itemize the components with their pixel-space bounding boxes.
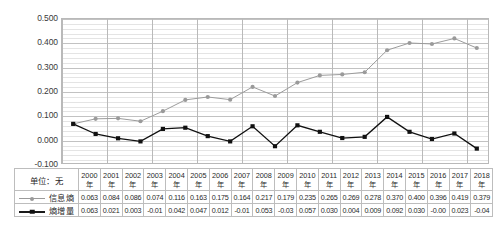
y-axis-tick-label: 0.000 [0, 135, 58, 145]
series-name-label: 熵增量 [49, 204, 74, 216]
chart-plot-region: 0.5000.4000.3000.2000.1000.000-0.100 [0, 0, 504, 168]
table-cell-value: 0.042 [166, 204, 188, 217]
table-cell-value: 0.265 [318, 191, 340, 204]
table-cell-value: 0.004 [340, 204, 362, 217]
table-cell-value: 0.370 [384, 191, 406, 204]
table-header-year: 2001年 [100, 169, 122, 191]
table-cell-value: 0.021 [100, 204, 122, 217]
data-point [161, 109, 165, 113]
table-cell-value: -0.03 [275, 204, 297, 217]
table-header-year: 2003年 [144, 169, 166, 191]
plot-area [61, 18, 489, 164]
data-point [452, 36, 456, 40]
data-point [340, 136, 344, 140]
table-cell-value: 0.116 [166, 191, 188, 204]
table-header-year: 2009年 [275, 169, 297, 191]
table-cell-value: 0.074 [144, 191, 166, 204]
y-axis-tick-label: 0.100 [0, 110, 58, 120]
table-cell-value: 0.235 [296, 191, 318, 204]
data-point [340, 72, 344, 76]
table-cell-value: 0.164 [231, 191, 253, 204]
table-header-year: 2010年 [296, 169, 318, 191]
table-header-year: 2012年 [340, 169, 362, 191]
table-header-year: 2017年 [449, 169, 471, 191]
table-cell-value: 0.400 [405, 191, 427, 204]
data-point [273, 94, 277, 98]
table-header-year: 2018年 [471, 169, 493, 191]
y-axis-tick-label: 0.200 [0, 86, 58, 96]
table-cell-value: 0.179 [275, 191, 297, 204]
table-cell-value: 0.053 [253, 204, 275, 217]
data-point [161, 127, 165, 131]
table-cell-value: 0.217 [253, 191, 275, 204]
data-point [228, 98, 232, 102]
data-point [206, 134, 210, 138]
table-cell-value: -0.04 [471, 204, 493, 217]
y-axis-tick-label: 0.300 [0, 62, 58, 72]
table-cell-value: 0.163 [187, 191, 209, 204]
table-header-year: 2008年 [253, 169, 275, 191]
table-header-year: 2004年 [166, 169, 188, 191]
data-point [138, 139, 142, 143]
series-line-2 [73, 117, 477, 149]
data-point [385, 115, 389, 119]
data-point [452, 131, 456, 135]
data-point [475, 147, 479, 151]
table-cell-value: 0.175 [209, 191, 231, 204]
table-cell-value: -0.00 [427, 204, 449, 217]
table-cell-value: 0.092 [384, 204, 406, 217]
unit-cell: 单位：无 [15, 169, 79, 191]
table-header-year: 2016年 [427, 169, 449, 191]
table-cell-value: 0.057 [296, 204, 318, 217]
data-point [407, 130, 411, 134]
table-cell-value: 0.030 [405, 204, 427, 217]
data-point [430, 42, 434, 46]
series-line-1 [73, 38, 477, 123]
data-point [475, 46, 479, 50]
y-axis-tick-label: 0.400 [0, 37, 58, 47]
data-point [183, 126, 187, 130]
table-cell-value: 0.063 [79, 191, 101, 204]
table-cell-value: 0.023 [449, 204, 471, 217]
data-point [116, 116, 120, 120]
series-canvas [62, 19, 488, 163]
table-header-row: 单位：无 2000年2001年2002年2003年2004年2005年2006年… [15, 169, 493, 191]
data-point [116, 136, 120, 140]
data-point [363, 70, 367, 74]
table-cell-value: 0.269 [340, 191, 362, 204]
data-point [183, 98, 187, 102]
table-header-year: 2013年 [362, 169, 384, 191]
table-header-year: 2006年 [209, 169, 231, 191]
data-point [295, 123, 299, 127]
series-name-label: 信息熵 [49, 191, 74, 203]
table-header-year: 2011年 [318, 169, 340, 191]
table-cell-value: 0.084 [100, 191, 122, 204]
data-point [250, 85, 254, 89]
table-cell-value: 0.009 [362, 204, 384, 217]
table-header-year: 2007年 [231, 169, 253, 191]
table-cell-value: 0.003 [122, 204, 144, 217]
legend-row-2[interactable]: 熵增量 [15, 204, 79, 217]
data-point [94, 117, 98, 121]
data-point [318, 73, 322, 77]
table-cell-value: 0.047 [187, 204, 209, 217]
data-point [407, 41, 411, 45]
data-point [318, 130, 322, 134]
table-header-year: 2015年 [405, 169, 427, 191]
table-cell-value: 0.012 [209, 204, 231, 217]
table-header-year: 2002年 [122, 169, 144, 191]
legend-row-1[interactable]: 信息熵 [15, 191, 79, 204]
table-header-year: 2005年 [187, 169, 209, 191]
table-cell-value: 0.030 [318, 204, 340, 217]
data-point [430, 137, 434, 141]
data-table: 单位：无 2000年2001年2002年2003年2004年2005年2006年… [14, 168, 493, 217]
data-point [250, 124, 254, 128]
data-point [228, 139, 232, 143]
table-cell-value: 0.379 [471, 191, 493, 204]
table-header-year: 2000年 [79, 169, 101, 191]
chart-figure: 0.5000.4000.3000.2000.1000.000-0.100 单位：… [0, 0, 504, 231]
table-cell-value: 0.396 [427, 191, 449, 204]
table-cell-value: -0.01 [144, 204, 166, 217]
data-point [94, 132, 98, 136]
table-cell-value: -0.01 [231, 204, 253, 217]
